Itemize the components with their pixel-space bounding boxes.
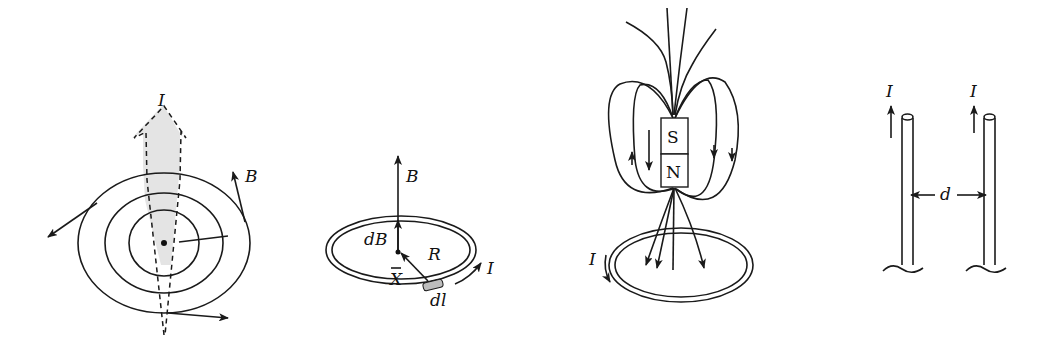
label-N: N [666,162,681,182]
label-S: S [667,127,679,147]
label-X: X [388,269,403,289]
label-dl: dl [430,290,446,310]
panel-straight-wire: I B [48,90,258,335]
label-current: I [157,90,165,110]
label-R: R [427,244,441,264]
field-vector-right [233,172,245,222]
label-I: I [588,249,596,269]
left-wire-break [883,266,923,272]
current-arrow-shape [132,105,183,265]
panel-magnet-loop: S N I [588,8,753,302]
label-dB: dB [364,229,387,249]
left-wire-top [902,114,913,120]
physics-figure: I B B dB R I X dl S N [0,0,1053,338]
radius-line [179,236,228,242]
position-vector [401,253,428,281]
label-I-left: I [885,81,893,101]
axis-point [396,250,401,255]
field-line-bottom-3 [673,188,674,270]
right-wire-break [966,266,1006,272]
label-B: B [405,166,419,186]
right-wire-top [984,114,995,120]
label-d: d [940,184,951,204]
label-I-right: I [969,81,977,101]
field-line-top-4 [675,29,716,115]
label-I: I [486,258,494,278]
wire-point [161,240,167,246]
field-vector-left [48,203,97,237]
loop-inner [615,233,747,297]
loop-outer [609,228,753,302]
label-field: B [244,166,258,186]
panel-parallel-wires: I I d [883,81,1006,272]
field-line-top-2 [667,8,673,115]
field-vector-bottom [168,313,228,318]
panel-current-loop: B dB R I X dl [326,156,494,310]
